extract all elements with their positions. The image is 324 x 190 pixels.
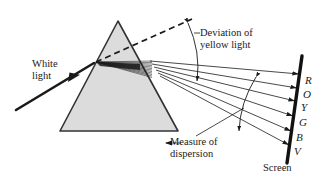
spectrum-letter-orange: O xyxy=(303,88,311,100)
spectrum-letter-yellow: Y xyxy=(301,101,307,113)
white-light-label: White light xyxy=(32,58,58,82)
measure-of-dispersion-label: Measure of dispersion xyxy=(170,136,218,160)
prism-dispersion-figure: White light Deviation of yellow light Me… xyxy=(0,0,324,190)
ray-green xyxy=(156,70,293,116)
spectrum-letter-green: G xyxy=(299,116,307,128)
dispersion-leader-line xyxy=(196,108,244,136)
ray-violet xyxy=(160,76,289,145)
ray-blue xyxy=(158,73,291,131)
spectrum-letter-red: R xyxy=(305,74,312,86)
spectrum-letter-violet: V xyxy=(294,145,301,157)
deviation-angle-arc xyxy=(188,23,198,81)
emergent-spectral-rays xyxy=(150,61,299,145)
screen-label: Screen xyxy=(263,162,292,174)
deviation-of-yellow-light-label: Deviation of yellow light xyxy=(200,27,253,51)
spectrum-letter-blue: B xyxy=(296,131,303,143)
